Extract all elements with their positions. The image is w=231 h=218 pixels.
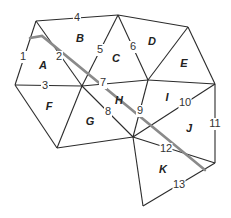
region-label-K: K xyxy=(159,163,168,175)
edge-P3-P7 xyxy=(188,27,215,84)
region-label-J: J xyxy=(186,122,193,134)
region-label-I: I xyxy=(165,91,169,103)
edge-label-7: 7 xyxy=(100,76,106,88)
edge-label-5: 5 xyxy=(97,43,103,55)
edge-label-12: 12 xyxy=(160,142,172,154)
edge-label-10: 10 xyxy=(179,96,191,108)
region-label-H: H xyxy=(115,94,124,106)
edge-P5-P8 xyxy=(57,86,82,148)
edge-label-8: 8 xyxy=(105,105,111,117)
region-label-C: C xyxy=(112,52,121,64)
edge-12 xyxy=(133,137,215,163)
edge-label-2: 2 xyxy=(56,50,62,62)
edge-7 xyxy=(82,80,148,86)
region-label-A: A xyxy=(38,59,47,71)
edge-label-6: 6 xyxy=(130,40,136,52)
edge-P4-P8 xyxy=(15,85,57,148)
edge-label-4: 4 xyxy=(74,11,80,23)
edge-label-1: 1 xyxy=(20,50,26,62)
edge-P9-P11 xyxy=(133,137,143,206)
region-label-E: E xyxy=(180,57,188,69)
edge-label-9: 9 xyxy=(137,104,143,116)
region-label-B: B xyxy=(76,32,84,44)
diagram-canvas: 12345678910111213 ABCDEFGHIJK xyxy=(0,0,231,218)
region-label-F: F xyxy=(46,100,53,112)
region-label-G: G xyxy=(86,115,95,127)
region-label-D: D xyxy=(148,35,156,47)
edge-P2-P3 xyxy=(118,15,188,27)
edge-label-13: 13 xyxy=(173,178,185,190)
edge-label-3: 3 xyxy=(42,79,48,91)
edge-label-11: 11 xyxy=(209,117,220,129)
region-map-diagram: 12345678910111213 ABCDEFGHIJK xyxy=(0,0,231,218)
edge-P6-P7 xyxy=(148,80,215,84)
edge-P8-P9 xyxy=(57,137,133,148)
